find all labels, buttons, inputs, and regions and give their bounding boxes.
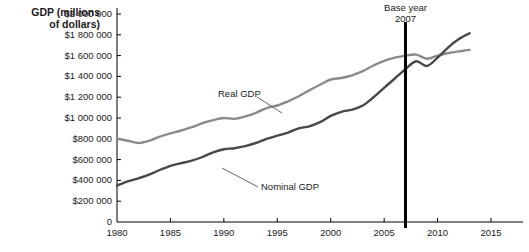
gdp-line-chart: GDP (millions of dollars) 0$200 000$400 … — [0, 0, 529, 252]
series-line-nominal-gdp — [117, 33, 470, 185]
leader-line-nominal-gdp — [222, 168, 258, 187]
series-line-real-gdp — [117, 50, 470, 143]
plot-area — [0, 0, 529, 252]
